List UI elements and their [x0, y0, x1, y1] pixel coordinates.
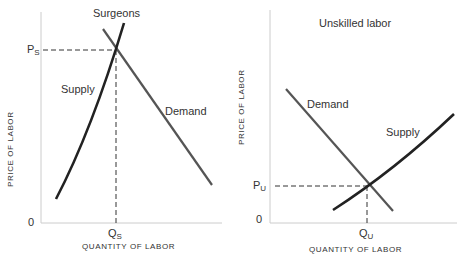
- y-axis-label: PRICE OF LABOR: [237, 69, 246, 145]
- chart-surgeons: Surgeons Supply Demand PS QS 0 QUANTITY …: [6, 7, 222, 251]
- chart-title: Unskilled labor: [319, 17, 391, 29]
- supply-curve: [56, 23, 124, 199]
- supply-label: Supply: [386, 126, 420, 138]
- labor-market-diagrams: Surgeons Supply Demand PS QS 0 QUANTITY …: [0, 0, 457, 259]
- price-label: PS: [27, 43, 40, 57]
- origin-label: 0: [256, 213, 262, 225]
- x-axis-label: QUANTITY OF LABOR: [82, 242, 175, 251]
- quantity-label: QU: [359, 227, 374, 241]
- quantity-label: QS: [108, 227, 122, 241]
- supply-label: Supply: [61, 83, 95, 95]
- price-label: PU: [253, 179, 266, 193]
- origin-label: 0: [28, 216, 34, 228]
- x-axis-label: QUANTITY OF LABOR: [309, 245, 402, 254]
- chart-unskilled-labor: Unskilled labor Demand Supply PU QU 0 QU…: [237, 10, 457, 254]
- demand-label: Demand: [165, 105, 207, 117]
- chart-title: Surgeons: [93, 7, 141, 19]
- y-axis-label: PRICE OF LABOR: [6, 111, 15, 187]
- demand-label: Demand: [307, 98, 349, 110]
